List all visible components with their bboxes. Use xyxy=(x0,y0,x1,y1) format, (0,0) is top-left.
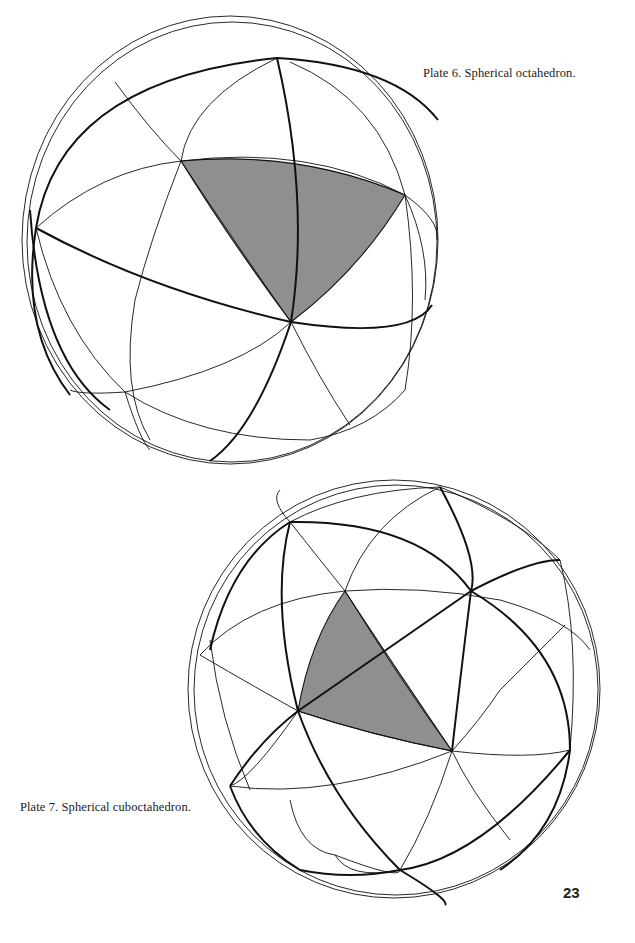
page-number: 23 xyxy=(563,884,580,901)
plate-6-caption: Plate 6. Spherical octahedron. xyxy=(423,66,576,81)
plate-7-caption: Plate 7. Spherical cuboctahedron. xyxy=(20,800,191,815)
shaded-face xyxy=(298,591,452,751)
